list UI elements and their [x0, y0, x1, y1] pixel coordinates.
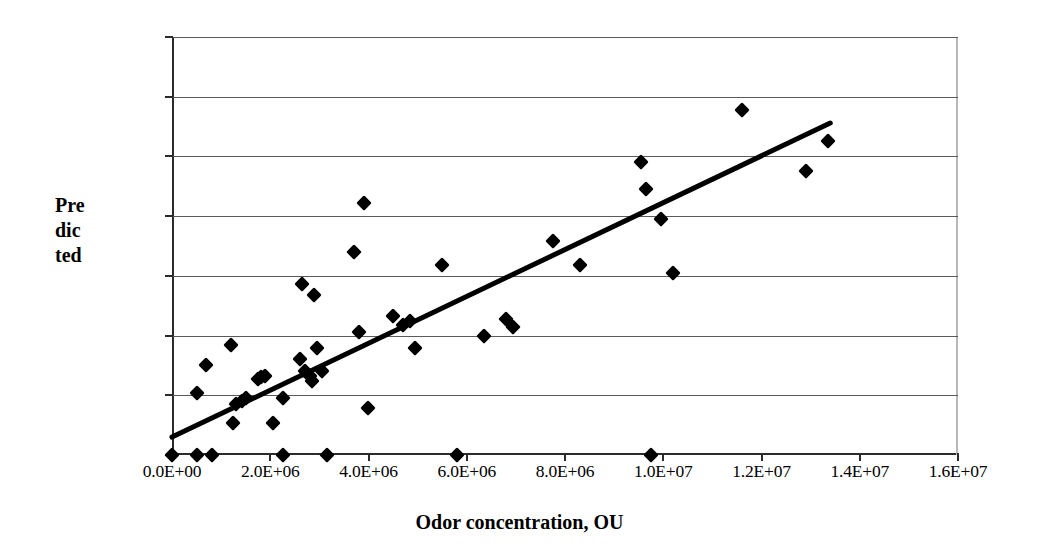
y-axis-title-line-3: ted	[55, 243, 109, 268]
x-axis-title: Odor concentration, OU	[0, 511, 1039, 534]
x-tick-label: 1.6E+07	[898, 463, 1018, 481]
trendline	[172, 37, 958, 455]
y-axis-title-line-2: dic	[55, 218, 109, 243]
y-axis-title-line-1: Pre	[55, 193, 109, 218]
plot-area: 0.0E+005.0E+051.0E+061.5E+062.0E+062.5E+…	[172, 37, 958, 455]
scatter-chart-figure: Pre dic ted 0.0E+005.0E+051.0E+061.5E+06…	[0, 0, 1039, 552]
y-axis-title: Pre dic ted	[55, 193, 109, 268]
